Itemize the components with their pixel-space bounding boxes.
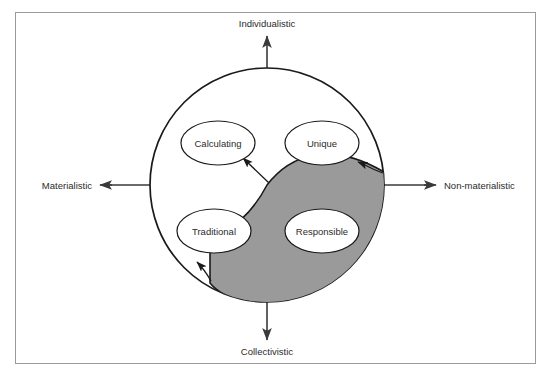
diagram-page: Calculating Unique Traditional Responsib… bbox=[0, 0, 551, 375]
axis-label-materialistic: Materialistic bbox=[42, 180, 92, 191]
node-responsible[interactable]: Responsible bbox=[285, 209, 359, 253]
node-unique-label: Unique bbox=[307, 138, 337, 149]
node-traditional[interactable]: Traditional bbox=[177, 209, 251, 253]
node-traditional-label: Traditional bbox=[192, 226, 236, 237]
diagram-canvas: Calculating Unique Traditional Responsib… bbox=[0, 0, 551, 375]
node-calculating[interactable]: Calculating bbox=[181, 121, 255, 165]
node-calculating-label: Calculating bbox=[195, 138, 242, 149]
node-unique[interactable]: Unique bbox=[285, 121, 359, 165]
axis-label-collectivistic: Collectivistic bbox=[241, 346, 294, 357]
axis-label-individualistic: Individualistic bbox=[239, 18, 296, 29]
axis-label-non-materialistic: Non-materialistic bbox=[444, 180, 515, 191]
node-responsible-label: Responsible bbox=[296, 226, 348, 237]
